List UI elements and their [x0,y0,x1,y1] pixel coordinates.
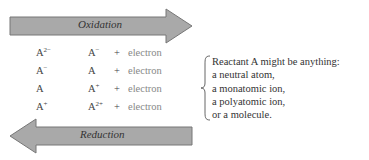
electron-label: electron [128,83,162,94]
oxidation-label: Oxidation [78,18,122,30]
reduction-arrow: Reduction [8,118,194,154]
reactant: A− [36,65,48,76]
note-line: or a molecule. [212,108,340,121]
reduction-label: Reduction [80,128,125,140]
note-line: a polyatomic ion, [212,95,340,108]
product: A+ [88,83,100,94]
curly-brace-icon [200,55,212,125]
plus-sign: + [114,65,120,76]
oxidation-arrow: Oxidation [8,8,194,44]
plus-sign: + [114,83,120,94]
product: A2+ [88,101,103,112]
electron-label: electron [128,101,162,112]
reactant: A2− [36,47,51,58]
note-line: a neutral atom, [212,68,340,81]
product: A− [88,47,100,58]
plus-sign: + [114,101,120,112]
reactant: A+ [36,101,48,112]
note-line: a monatomic ion, [212,82,340,95]
note-line: Reactant A might be anything: [212,55,340,68]
electron-label: electron [128,47,162,58]
reactant: A [36,83,44,94]
product: A [88,65,96,76]
plus-sign: + [114,47,120,58]
reactant-note: Reactant A might be anything: a neutral … [212,55,340,121]
electron-label: electron [128,65,162,76]
